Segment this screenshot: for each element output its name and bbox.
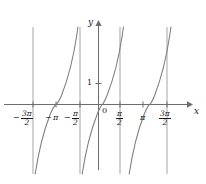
tangent-branch-right	[129, 27, 171, 174]
origin-label: 0	[102, 107, 107, 115]
tangent-branch-left	[35, 27, 78, 174]
fraction-numerator: π	[116, 110, 123, 118]
x-axis-arrow	[187, 101, 193, 107]
tick-label-neg-pi-sign: −	[45, 113, 52, 122]
fraction-denominator: 2	[159, 118, 171, 127]
fraction-denominator: 2	[72, 118, 79, 127]
y-axis	[95, 20, 101, 170]
figure-canvas: y x 0 1 − 3π 2 − π − π 2 π 2 π 3π 2	[0, 0, 206, 184]
tick-label-neg-3pi-2: 3π 2	[21, 110, 33, 127]
fraction-numerator: π	[72, 110, 79, 118]
tick-label-neg-3pi-2-sign: −	[13, 113, 20, 122]
tangent-curves	[35, 27, 171, 174]
y-axis-arrow	[95, 20, 101, 26]
tick-label-pi: π	[140, 113, 145, 122]
tick-label-neg-pi: π	[53, 113, 58, 122]
tangent-graph-svg	[0, 0, 206, 184]
y-tick-label-1: 1	[87, 79, 92, 87]
fraction-denominator: 2	[21, 118, 33, 127]
x-axis-label: x	[194, 107, 199, 116]
tick-label-neg-pi-2-sign: −	[64, 113, 71, 122]
asymptote-lines	[33, 27, 167, 174]
tick-label-3pi-2: 3π 2	[159, 110, 171, 127]
tick-label-neg-pi-2: π 2	[72, 110, 79, 127]
tick-label-pi-2: π 2	[116, 110, 123, 127]
tangent-branch-center	[82, 27, 123, 174]
fraction-denominator: 2	[116, 118, 123, 127]
fraction-numerator: 3π	[159, 110, 171, 118]
fraction-numerator: 3π	[21, 110, 33, 118]
y-axis-label: y	[88, 18, 93, 27]
